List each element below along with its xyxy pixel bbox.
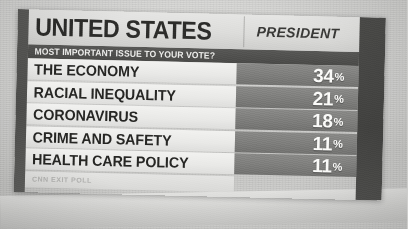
percent-sign: %: [335, 70, 345, 82]
row-value-cell: 11 %: [234, 153, 356, 177]
row-label-cell: CRIME AND SAFETY: [26, 126, 235, 152]
page-title: UNITED STATES: [28, 14, 211, 43]
row-value-cell: 34 %: [236, 63, 358, 87]
issue-label: CORONAVIRUS: [26, 106, 138, 124]
footer-value-cell: [234, 176, 356, 195]
percent-sign: %: [334, 115, 344, 127]
row-label-cell: CORONAVIRUS: [26, 103, 235, 129]
row-value-cell: 11 %: [235, 131, 357, 155]
right-side-band: [356, 17, 386, 201]
issue-label: RACIAL INEQUALITY: [27, 84, 176, 103]
exit-poll-graphic: UNITED STATES PRESIDENT MOST IMPORTANT I…: [14, 9, 386, 201]
percent-sign: %: [334, 92, 344, 104]
row-value-cell: 21 %: [236, 86, 358, 110]
row-label-cell: HEALTH CARE POLICY: [25, 148, 234, 174]
source-attribution: CNN EXIT POLL: [25, 175, 92, 184]
row-value-cell: 18 %: [235, 108, 357, 132]
poll-results-list: THE ECONOMY 34 % RACIAL INEQUALITY 21 %: [25, 58, 359, 194]
row-label-cell: RACIAL INEQUALITY: [27, 81, 236, 107]
issue-label: THE ECONOMY: [27, 61, 139, 79]
footer-label-cell: CNN EXIT POLL: [25, 171, 234, 192]
issue-value: 34: [313, 66, 334, 85]
issue-label: CRIME AND SAFETY: [26, 129, 172, 147]
issue-value: 11: [312, 133, 332, 152]
percent-sign: %: [333, 137, 343, 149]
row-label-cell: THE ECONOMY: [27, 58, 236, 84]
issue-value: 18: [312, 111, 333, 130]
graphic-body: UNITED STATES PRESIDENT MOST IMPORTANT I…: [25, 9, 360, 200]
header-divider: [243, 16, 245, 47]
issue-value: 11: [312, 156, 332, 175]
percent-sign: %: [332, 160, 342, 172]
race-label: PRESIDENT: [256, 24, 339, 42]
issue-value: 21: [312, 88, 333, 107]
issue-label: HEALTH CARE POLICY: [25, 151, 188, 170]
